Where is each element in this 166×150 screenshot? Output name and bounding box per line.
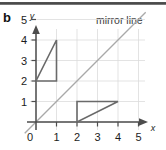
y-tick-label-5: 5 <box>21 14 27 26</box>
x-axis-name: x <box>150 123 156 133</box>
x-tick-label-3: 3 <box>94 131 100 143</box>
x-axis <box>27 118 148 126</box>
x-tick-label-5: 5 <box>135 131 141 143</box>
y-tick-label-3: 3 <box>21 55 27 67</box>
mirror-line <box>25 12 146 133</box>
figure-panel: b mirror line <box>0 0 166 150</box>
grid-lines <box>30 20 145 131</box>
coordinate-plot: 0 1 2 3 4 5 1 2 3 4 5 y x <box>0 0 166 150</box>
y-tick-label-2: 2 <box>21 75 27 87</box>
y-tick-label-1: 1 <box>21 96 27 108</box>
x-tick-label-0: 0 <box>27 131 33 143</box>
x-tick-label-1: 1 <box>53 131 59 143</box>
y-tick-label-4: 4 <box>21 34 27 46</box>
y-axis-name: y <box>29 11 35 21</box>
x-tick-label-2: 2 <box>74 131 80 143</box>
x-tick-label-4: 4 <box>115 131 121 143</box>
